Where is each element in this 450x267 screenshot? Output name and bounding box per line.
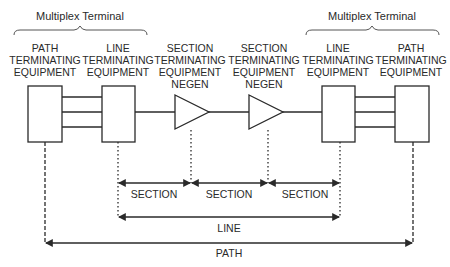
line-label: LINE: [217, 222, 240, 234]
right-pte-label-3: EQUIPMENT: [380, 66, 443, 78]
right-pte-label-2: TERMINATING: [375, 54, 447, 66]
right-pte-box: [395, 86, 429, 142]
regen2-label-3: EQUIPMENT: [233, 66, 296, 78]
left-lte-label-1: LINE: [106, 42, 129, 54]
regen2-label-4: NEGEN: [245, 78, 282, 90]
right-tributary-lines: [355, 97, 395, 127]
left-tributary-lines: [62, 97, 102, 127]
regen1-label-3: EQUIPMENT: [159, 66, 222, 78]
right-multiplex-terminal-title: Multiplex Terminal: [328, 10, 416, 22]
regen1-label-1: SECTION: [167, 42, 214, 54]
regen1-label-4: NEGEN: [171, 78, 208, 90]
section-1-label: SECTION: [131, 188, 178, 200]
regenerator-1-triangle-icon: [175, 95, 209, 129]
right-lte-label-1: LINE: [326, 42, 349, 54]
left-lte-label-2: TERMINATING: [82, 54, 154, 66]
regen2-label-1: SECTION: [241, 42, 288, 54]
left-lte-label-3: EQUIPMENT: [87, 66, 150, 78]
right-brace: [306, 26, 439, 35]
section-3-label: SECTION: [282, 188, 329, 200]
section-2-label: SECTION: [206, 188, 253, 200]
right-pte-label-1: PATH: [398, 42, 424, 54]
left-brace: [14, 26, 147, 35]
regen2-label-2: TERMINATING: [228, 54, 300, 66]
sonet-layers-diagram: Multiplex Terminal Multiplex Terminal PA…: [0, 0, 450, 267]
left-multiplex-terminal-title: Multiplex Terminal: [36, 10, 124, 22]
left-pte-label-3: EQUIPMENT: [14, 66, 77, 78]
left-lte-box: [102, 86, 135, 142]
left-multiplex-terminal-group: Multiplex Terminal: [14, 10, 147, 35]
right-lte-label-2: TERMINATING: [302, 54, 374, 66]
right-lte-label-3: EQUIPMENT: [307, 66, 370, 78]
right-multiplex-terminal-group: Multiplex Terminal: [306, 10, 439, 35]
right-lte-box: [322, 86, 355, 142]
left-pte-label-2: TERMINATING: [9, 54, 81, 66]
path-label: PATH: [216, 247, 242, 259]
regenerator-2-triangle-icon: [249, 95, 283, 129]
regen1-label-2: TERMINATING: [154, 54, 226, 66]
left-pte-label-1: PATH: [32, 42, 58, 54]
left-pte-box: [28, 86, 62, 142]
